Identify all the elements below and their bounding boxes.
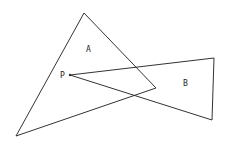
label-b: B	[183, 79, 188, 88]
triangle-diagram: A B P	[0, 0, 225, 147]
triangle-a	[16, 13, 156, 136]
label-p: P	[60, 71, 65, 80]
point-p	[69, 74, 71, 76]
triangle-b	[70, 58, 214, 120]
label-a: A	[86, 45, 91, 54]
